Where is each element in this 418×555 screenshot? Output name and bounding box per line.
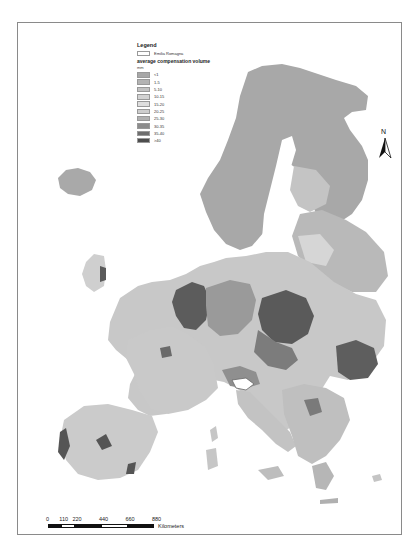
legend-highlight-label: Emilia Romagna [154, 51, 183, 56]
region-iceland [58, 168, 96, 196]
legend-class-swatch [137, 101, 150, 107]
legend-class-label: 1-5 [154, 80, 160, 85]
scale-segment [75, 524, 102, 528]
region-greece [312, 462, 334, 490]
legend-class-row: 1-5 [137, 79, 247, 86]
scale-tick-label: 0 [46, 516, 49, 522]
legend-class-row: 20-25 [137, 108, 247, 115]
region-dublin [100, 266, 106, 282]
scale-tick-label: 440 [99, 516, 108, 522]
legend-class-label: 35-40 [154, 131, 164, 136]
legend-class-swatch [137, 79, 150, 85]
legend-class-swatch [137, 131, 150, 137]
legend-highlight-swatch [137, 51, 150, 57]
legend-class-row: 25-30 [137, 115, 247, 122]
legend-class-row: 30-35 [137, 122, 247, 129]
legend-class-label: 5-10 [154, 87, 162, 92]
legend-class-row: 15-20 [137, 100, 247, 107]
north-label: N [381, 128, 386, 135]
scale-segment [48, 524, 61, 528]
legend-class-label: 30-35 [154, 124, 164, 129]
scale-segment [128, 524, 155, 528]
legend-class-row: 10-15 [137, 93, 247, 100]
region-paris [160, 346, 172, 358]
legend-unit: mm [137, 65, 247, 70]
region-sardinia [206, 448, 218, 470]
scale-bar: 0110220440660880Kilometers [48, 516, 218, 534]
legend-class-row: >40 [137, 137, 247, 144]
legend-class-label: <1 [154, 72, 159, 77]
legend-class-swatch [137, 123, 150, 129]
scale-tick-label: 660 [126, 516, 135, 522]
legend-class-swatch [137, 94, 150, 100]
region-balkans [282, 384, 350, 464]
legend-class-label: >40 [154, 138, 161, 143]
region-cyprus [372, 474, 382, 482]
scale-segment [61, 524, 74, 528]
legend-class-label: 25-30 [154, 116, 164, 121]
scale-tick-label: 880 [152, 516, 161, 522]
legend-class-swatch [137, 116, 150, 122]
legend-class-row: 35-40 [137, 130, 247, 137]
legend-variable: average compensation volume [137, 58, 247, 64]
legend-class-row: <1 [137, 71, 247, 78]
scale-unit-label: Kilometers [158, 523, 184, 529]
region-crete [320, 498, 338, 504]
legend-class-swatch [137, 138, 150, 144]
legend-class-label: 15-20 [154, 102, 164, 107]
legend-class-row: 5-10 [137, 86, 247, 93]
scale-segment [101, 524, 128, 528]
region-corsica [210, 426, 218, 442]
legend-class-swatch [137, 87, 150, 93]
legend-classes: <11-55-1010-1515-2020-2525-3030-3535-40>… [137, 71, 247, 144]
region-sicily [258, 466, 284, 480]
legend-class-label: 10-15 [154, 94, 164, 99]
scale-tick-label: 220 [73, 516, 82, 522]
legend-class-swatch [137, 72, 150, 78]
legend-class-label: 20-25 [154, 109, 164, 114]
legend-class-swatch [137, 109, 150, 115]
scale-tick-label: 110 [59, 516, 68, 522]
legend-title: Legend [137, 42, 247, 48]
legend-highlight-row: Emilia Romagna [137, 50, 247, 57]
north-arrow: N [376, 128, 394, 164]
legend: Legend Emilia Romagna average compensati… [137, 42, 247, 144]
